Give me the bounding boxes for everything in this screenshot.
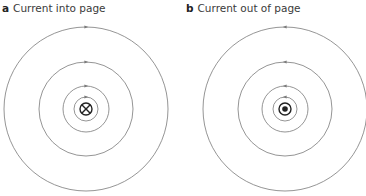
field-direction-arrow-icon [84,61,88,64]
field-direction-arrow-icon [84,85,88,88]
field-direction-arrow-icon [283,96,287,99]
field-direction-arrow-icon [84,96,88,99]
magnetic-field-diagram [0,0,366,196]
field-direction-arrow-icon [84,26,88,29]
field-direction-arrow-icon [283,26,287,29]
panel-a-field-lines [4,26,168,192]
current-out-of-page-icon [279,103,291,115]
field-direction-arrow-icon [283,85,287,88]
field-direction-arrow-icon [283,61,287,64]
panel-b-field-lines [203,26,366,192]
current-into-page-icon [80,103,92,115]
